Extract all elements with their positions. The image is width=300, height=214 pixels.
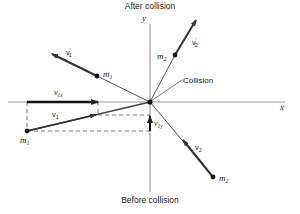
x-axis-label: x	[279, 102, 284, 112]
collision-label: Collision	[183, 76, 213, 85]
collision-point-dot	[147, 99, 152, 104]
m1-before-dot	[25, 129, 30, 134]
after-collision-title: After collision	[125, 1, 176, 11]
m2-after-label: m2	[157, 51, 167, 62]
v2-vector	[150, 102, 213, 177]
v1-label: v1	[52, 110, 59, 120]
collision-diagram: x y After collision Before collision v1 …	[0, 0, 300, 214]
before-collision-title: Before collision	[121, 195, 179, 205]
v2-label: v2	[195, 143, 202, 153]
v1-prime-vector	[52, 54, 150, 102]
v1x-label: v1x	[54, 88, 63, 98]
v1-vector	[27, 102, 150, 131]
m2-after-dot	[173, 53, 178, 58]
diagram-canvas: x y After collision Before collision v1 …	[0, 0, 300, 214]
y-axis-label: y	[141, 13, 146, 23]
m2-before-dot	[211, 175, 216, 180]
m1-after-dot	[95, 74, 100, 79]
v2-prime-vector	[150, 20, 196, 102]
v1y-label: v1y	[154, 119, 163, 129]
m2-before-label: m2	[219, 173, 229, 184]
m1-after-label: m1	[103, 69, 113, 80]
v2-prime-label: v′2	[192, 37, 198, 48]
v1-prime-label: v′1	[66, 47, 72, 58]
m1-before-label: m1	[20, 135, 30, 146]
